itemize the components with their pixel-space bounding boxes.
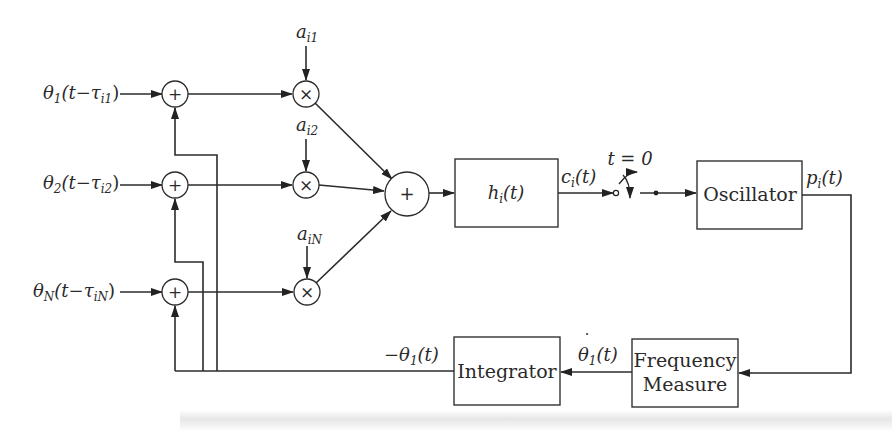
gain-label-a-i2: ai2	[296, 114, 318, 138]
gain-label-a-iN: aiN	[297, 223, 323, 247]
gain-label-a-i1: ai1	[296, 21, 318, 45]
svg-text:×: ×	[299, 84, 313, 104]
svg-text:−θ1(t): −θ1(t)	[384, 344, 439, 368]
svg-text:˙: ˙	[583, 331, 591, 350]
svg-text:pi(t): pi(t)	[806, 167, 843, 191]
svg-text:+: +	[399, 183, 414, 204]
adder-N: +	[162, 279, 188, 305]
filter-block: hi(t)	[455, 159, 558, 227]
svg-text:θ2(t−τi2): θ2(t−τi2)	[43, 172, 119, 196]
svg-text:×: ×	[300, 282, 314, 302]
svg-text:Oscillator: Oscillator	[703, 183, 798, 205]
adder-1: +	[162, 81, 188, 107]
signal-label-neg-theta: −θ1(t)	[384, 344, 439, 368]
svg-text:ai2: ai2	[296, 114, 318, 138]
svg-text:Frequency: Frequency	[634, 349, 737, 371]
integrator-block: Integrator	[454, 337, 560, 405]
signal-label-theta-dot: θ1(t) ˙	[578, 331, 618, 368]
svg-text:×: ×	[299, 175, 313, 195]
switch-t0: t = 0	[607, 148, 652, 198]
mulN-to-sum	[316, 211, 391, 283]
svg-text:ai1: ai1	[296, 21, 318, 45]
input-label-theta2: θ2(t−τi2)	[43, 172, 119, 196]
input-label-thetaN: θN(t−τiN)	[33, 280, 115, 304]
mul1-to-sum	[315, 103, 392, 179]
svg-text:+: +	[168, 175, 182, 195]
svg-text:+: +	[168, 282, 182, 302]
svg-text:+: +	[168, 84, 182, 104]
signal-label-c-i: ci(t)	[561, 166, 596, 190]
mul2-to-sum	[319, 185, 384, 191]
svg-text:t = 0: t = 0	[607, 148, 652, 169]
oscillator-block: Oscillator	[697, 161, 802, 229]
main-adder: +	[385, 172, 429, 216]
frequency-measure-block: Frequency Measure	[632, 339, 738, 407]
feedback-to-sum1	[175, 108, 217, 371]
junction-dot	[654, 191, 659, 196]
svg-text:Integrator: Integrator	[457, 360, 557, 382]
svg-text:ci(t): ci(t)	[561, 166, 596, 190]
block-diagram: θ1(t−τi1) θ2(t−τi2) θN(t−τiN) + + + ai1 …	[0, 0, 892, 430]
signal-label-p-i: pi(t)	[806, 167, 843, 191]
input-label-theta1: θ1(t−τi1)	[43, 82, 119, 106]
svg-text:θ1(t−τi1): θ1(t−τi1)	[43, 82, 119, 106]
svg-text:θN(t−τiN): θN(t−τiN)	[33, 280, 115, 304]
svg-text:Measure: Measure	[643, 373, 727, 395]
adder-2: +	[162, 172, 188, 198]
svg-text:hi(t): hi(t)	[488, 182, 525, 206]
scan-shadow	[180, 410, 892, 430]
multiplier-2: ×	[293, 172, 319, 198]
svg-text:aiN: aiN	[297, 223, 323, 247]
